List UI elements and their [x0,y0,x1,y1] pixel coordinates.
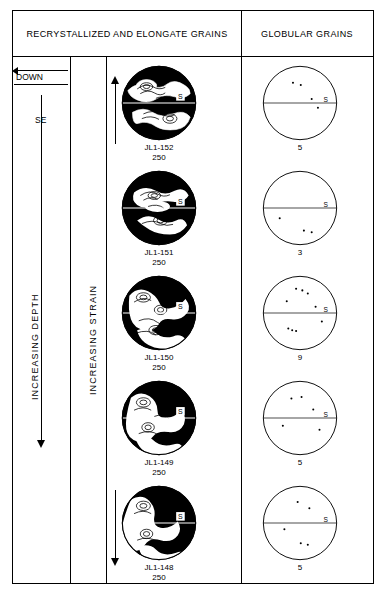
header-right-cell: GLOBULAR GRAINS [241,11,373,56]
row-caption-right: 3 [261,248,339,258]
sample-count-left: 250 [120,153,198,163]
sample-count-right: 5 [261,458,339,468]
stereonet-recrystallized-jl1-151: S [120,169,198,247]
s-label-right: S [324,201,329,208]
table-row: S JL1-148 250 S 5 [106,482,373,587]
sample-count-right: 9 [261,353,339,363]
s-label-right: S [324,306,329,313]
s-label: S [178,93,183,100]
table-row: S JL1-152 250 S 5 [106,62,373,167]
stereonet-globular-jl1-149: S [261,379,339,457]
stereonet-recrystallized-jl1-150: S [120,274,198,352]
sample-count-left: 250 [120,258,198,268]
orientation-key-line-top [14,70,68,71]
s-label: S [178,408,183,415]
stereonet-recrystallized-jl1-149: S [120,379,198,457]
row-caption-right: 5 [261,458,339,468]
down-label: DOWN [16,72,43,82]
header-left-cell: RECRYSTALLIZED AND ELONGATE GRAINS [13,11,241,56]
stereonet-globular-jl1-151: S [261,169,339,247]
sample-name: JL1-151 [120,248,198,258]
strain-arrow-head-icon [111,558,119,566]
sample-count-left: 250 [120,363,198,373]
row-caption-right: 5 [261,143,339,153]
increasing-depth-label: INCREASING DEPTH [30,293,40,400]
header-left-title: RECRYSTALLIZED AND ELONGATE GRAINS [26,28,227,40]
sample-name: JL1-152 [120,143,198,153]
depth-arrow-line [41,95,42,440]
sample-name: JL1-150 [120,353,198,363]
row-caption-left: JL1-152 250 [120,143,198,163]
stereonet-recrystallized-jl1-152: S [120,64,198,142]
header-right-title: GLOBULAR GRAINS [261,28,353,40]
table-row: S JL1-151 250 S 3 [106,167,373,272]
row-caption-right: 9 [261,353,339,363]
s-label: S [178,198,183,205]
s-label: S [178,513,183,520]
s-label-right: S [324,411,329,418]
row-caption-left: JL1-148 250 [120,563,198,583]
s-label: S [178,303,183,310]
stereonet-recrystallized-jl1-148: S [120,484,198,562]
sample-count-left: 250 [120,468,198,478]
strain-arrow-line [115,84,116,144]
strain-arrow-head-icon [111,76,119,84]
row-caption-left: JL1-150 250 [120,353,198,373]
table-row: S JL1-149 250 S 5 [106,377,373,482]
figure-root: RECRYSTALLIZED AND ELONGATE GRAINS GLOBU… [0,0,388,596]
sample-count-left: 250 [120,573,198,583]
sample-count-right: 3 [261,248,339,258]
stereonet-globular-jl1-148: S [261,484,339,562]
sample-count-right: 5 [261,143,339,153]
row-caption-left: JL1-151 250 [120,248,198,268]
s-label-right: S [324,96,329,103]
sample-name: JL1-149 [120,458,198,468]
row-caption-right: 5 [261,563,339,573]
orientation-key-line-bottom [14,84,68,85]
table-row: S JL1-150 250 S 9 [106,272,373,377]
sample-name: JL1-148 [120,563,198,573]
stereonet-globular-jl1-150: S [261,274,339,352]
row-caption-left: JL1-149 250 [120,458,198,478]
column-divider-1 [70,57,71,584]
strain-arrow-line [115,490,116,558]
header-band: RECRYSTALLIZED AND ELONGATE GRAINS GLOBU… [13,11,373,57]
sample-count-right: 5 [261,563,339,573]
depth-arrow-head-icon [37,440,45,448]
stereonet-globular-jl1-152: S [261,64,339,142]
increasing-strain-label: INCREASING STRAIN [88,285,98,395]
s-label-right: S [324,516,329,523]
